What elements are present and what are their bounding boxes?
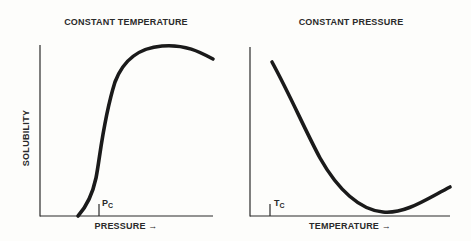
pc-sub: C (108, 202, 113, 209)
left-x-axis-label: PRESSURE → (94, 221, 157, 231)
plot-canvas (0, 0, 471, 241)
figure: CONSTANT TEMPERATURE SOLUBILITY PRESSURE… (0, 0, 471, 241)
pc-marker-label: PC (102, 198, 113, 209)
right-solubility-curve (272, 62, 450, 212)
left-axes (40, 45, 213, 217)
left-chart-title: CONSTANT TEMPERATURE (64, 17, 188, 27)
right-x-axis-label: TEMPERATURE → (309, 221, 391, 231)
left-y-axis-label: SOLUBILITY (21, 110, 31, 167)
tc-sub: C (280, 202, 285, 209)
right-chart-title: CONSTANT PRESSURE (299, 17, 404, 27)
tc-marker-label: TC (274, 198, 285, 209)
right-axes (250, 47, 450, 217)
left-solubility-curve (78, 46, 213, 216)
